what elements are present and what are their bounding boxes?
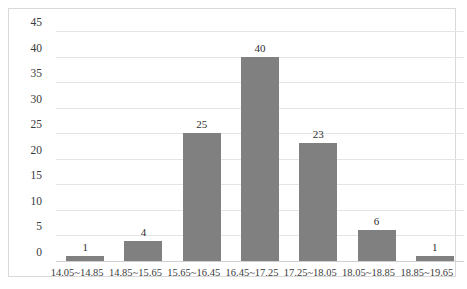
x-axis-tick-label: 17.25~18.05 [281, 268, 339, 279]
bar-value-label: 1 [406, 242, 464, 253]
bar-value-label: 23 [289, 129, 347, 140]
y-axis-tick-label: 10 [2, 196, 42, 208]
y-axis-tick-label: 20 [2, 145, 42, 157]
x-axis-tick-label: 18.05~18.85 [339, 268, 397, 279]
plot-area: 1425402361 [56, 31, 464, 261]
bars-layer: 1425402361 [56, 31, 464, 261]
bar[interactable] [124, 241, 162, 261]
x-axis-tick-label: 14.85~15.65 [106, 268, 164, 279]
y-axis-tick-label: 5 [2, 222, 42, 234]
x-axis-tick-label: 18.85~19.65 [398, 268, 456, 279]
bar[interactable] [241, 57, 279, 261]
y-axis-tick-label: 30 [2, 94, 42, 106]
bar-value-label: 25 [173, 119, 231, 130]
y-axis-tick-label: 35 [2, 68, 42, 80]
bar-value-label: 4 [114, 227, 172, 238]
axis-baseline [56, 261, 464, 262]
bar[interactable] [358, 230, 396, 261]
bar[interactable] [66, 256, 104, 261]
y-axis-tick-label: 40 [2, 43, 42, 55]
bar[interactable] [183, 133, 221, 261]
bar-value-label: 6 [347, 216, 405, 227]
bar-value-label: 1 [56, 242, 114, 253]
bar-value-label: 40 [231, 43, 289, 54]
y-axis-tick-label: 0 [2, 247, 42, 259]
x-axis-tick-label: 15.65~16.45 [165, 268, 223, 279]
chart-frame: 051015202530354045 1425402361 14.05~14.8… [8, 8, 456, 277]
bar[interactable] [416, 256, 454, 261]
y-axis-tick-label: 45 [2, 17, 42, 29]
x-axis-tick-label: 14.05~14.85 [48, 268, 106, 279]
x-axis-tick-label: 16.45~17.25 [223, 268, 281, 279]
bar[interactable] [299, 143, 337, 261]
y-axis-tick-label: 15 [2, 171, 42, 183]
y-axis-tick-label: 25 [2, 119, 42, 131]
bar-chart: 051015202530354045 1425402361 14.05~14.8… [0, 0, 467, 289]
